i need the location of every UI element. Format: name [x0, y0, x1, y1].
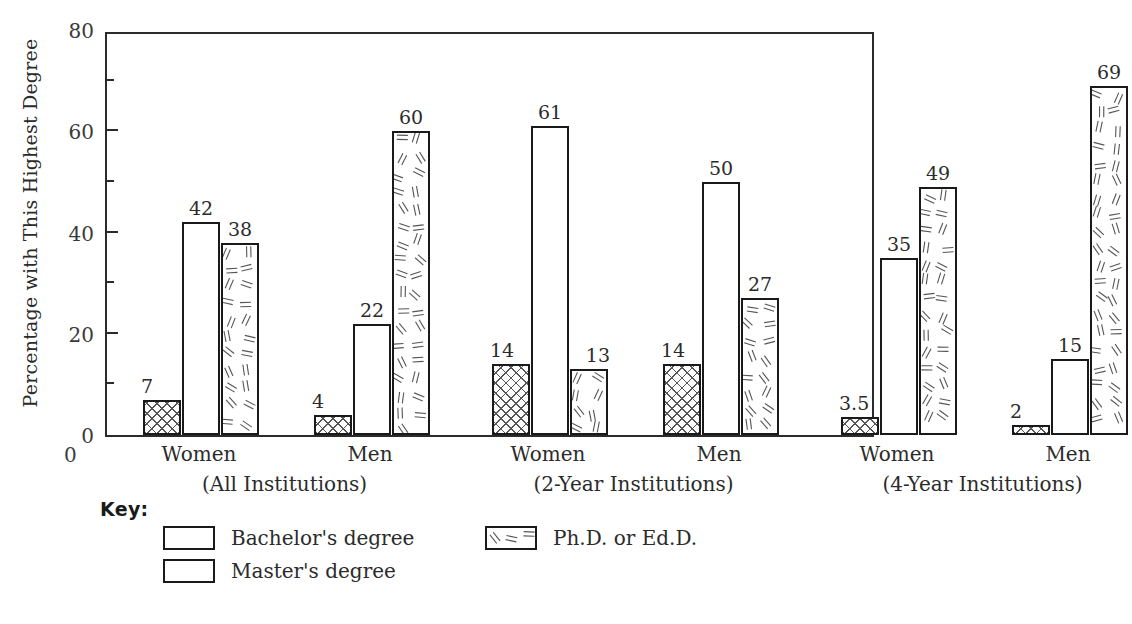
- legend-swatch: [163, 559, 215, 583]
- x-axis-subgroup-label: Men: [988, 443, 1132, 465]
- phd-pattern-fill: [1092, 88, 1126, 433]
- x-axis-subgroup-label: Men: [290, 443, 450, 465]
- bar: 14: [663, 364, 701, 435]
- bar: 14: [492, 364, 530, 435]
- bar-value-label: 2: [1010, 402, 1022, 421]
- phd-hatch-texture: [487, 528, 535, 548]
- legend-label: Bachelor's degree: [231, 525, 414, 551]
- bar-value-label: 7: [141, 377, 153, 396]
- phd-hatch-texture: [921, 189, 955, 433]
- bar: 49: [919, 187, 957, 435]
- bar: 69: [1090, 86, 1128, 435]
- phd-hatch-texture: [743, 300, 777, 433]
- legend-swatch: [163, 526, 215, 550]
- phd-pattern-fill: [572, 371, 606, 433]
- x-axis-subgroup-label: Women: [119, 443, 279, 465]
- bar: 61: [531, 126, 569, 435]
- bar-value-label: 60: [399, 108, 423, 127]
- legend-label: Ph.D. or Ed.D.: [553, 525, 697, 551]
- bar-value-label: 4: [312, 392, 324, 411]
- bar: 13: [570, 369, 608, 435]
- y-tick-label-80: 80: [48, 21, 94, 41]
- phd-pattern-fill: [394, 133, 428, 433]
- y-tick-label-60: 60: [48, 122, 94, 142]
- bar: 2: [1012, 425, 1050, 435]
- bar-value-label: 42: [189, 199, 213, 218]
- bar-value-label: 3.5: [839, 394, 869, 413]
- phd-pattern-fill: [487, 528, 535, 548]
- y-tick-40: [106, 231, 118, 233]
- x-axis-subgroup-label: Men: [639, 443, 799, 465]
- y-tick-30: [106, 281, 114, 283]
- bar: 42: [182, 222, 220, 435]
- bar: 3.5: [841, 417, 879, 435]
- phd-hatch-texture: [1092, 88, 1126, 433]
- bar-value-label: 49: [926, 164, 950, 183]
- bar: 27: [741, 298, 779, 435]
- legend-title: Key:: [100, 498, 148, 520]
- bar-value-label: 50: [709, 159, 733, 178]
- bar-value-label: 13: [586, 346, 610, 365]
- phd-pattern-fill: [223, 245, 257, 433]
- y-tick-label-40: 40: [48, 224, 94, 244]
- bar-value-label: 15: [1058, 336, 1082, 355]
- bar-value-label: 14: [661, 341, 685, 360]
- bar-value-label: 69: [1097, 63, 1121, 82]
- bar-value-label: 14: [490, 341, 514, 360]
- bar: 22: [353, 324, 391, 435]
- y-tick-60: [106, 129, 118, 131]
- bar: 50: [702, 182, 740, 435]
- plot-area: 74238422601461131450273.5354921569: [105, 32, 874, 437]
- x-axis-cluster-label: (4-Year Institutions): [843, 473, 1123, 495]
- bar: 60: [392, 131, 430, 435]
- legend-swatch: [485, 526, 537, 550]
- bar-value-label: 61: [538, 103, 562, 122]
- bar-value-label: 27: [748, 275, 772, 294]
- y-axis-title: Percentage with This Highest Degree: [19, 0, 41, 503]
- phd-hatch-texture: [572, 371, 606, 433]
- bar: 38: [221, 243, 259, 435]
- y-tick-20: [106, 332, 118, 334]
- bar-value-label: 35: [887, 235, 911, 254]
- bar: 35: [880, 258, 918, 435]
- y-tick-label-20: 20: [48, 325, 94, 345]
- phd-pattern-fill: [921, 189, 955, 433]
- chart-legend: Key: Bachelor's degreeMaster's degreePh.…: [100, 498, 890, 608]
- bar: 4: [314, 415, 352, 435]
- bar-value-label: 38: [228, 220, 252, 239]
- x-axis-subgroup-label: Women: [468, 443, 628, 465]
- phd-hatch-texture: [223, 245, 257, 433]
- phd-hatch-texture: [394, 133, 428, 433]
- x-axis-subgroup-label: Women: [817, 443, 977, 465]
- x-axis-origin-label: 0: [64, 443, 77, 467]
- bar-value-label: 22: [360, 301, 384, 320]
- y-tick-10: [106, 382, 114, 384]
- bar: 15: [1051, 359, 1089, 435]
- y-tick-70: [106, 79, 114, 81]
- x-axis-cluster-label: (All Institutions): [145, 473, 425, 495]
- phd-pattern-fill: [743, 300, 777, 433]
- legend-label: Master's degree: [231, 558, 396, 584]
- x-axis-cluster-label: (2-Year Institutions): [494, 473, 774, 495]
- bar: 7: [143, 400, 181, 435]
- y-tick-50: [106, 180, 114, 182]
